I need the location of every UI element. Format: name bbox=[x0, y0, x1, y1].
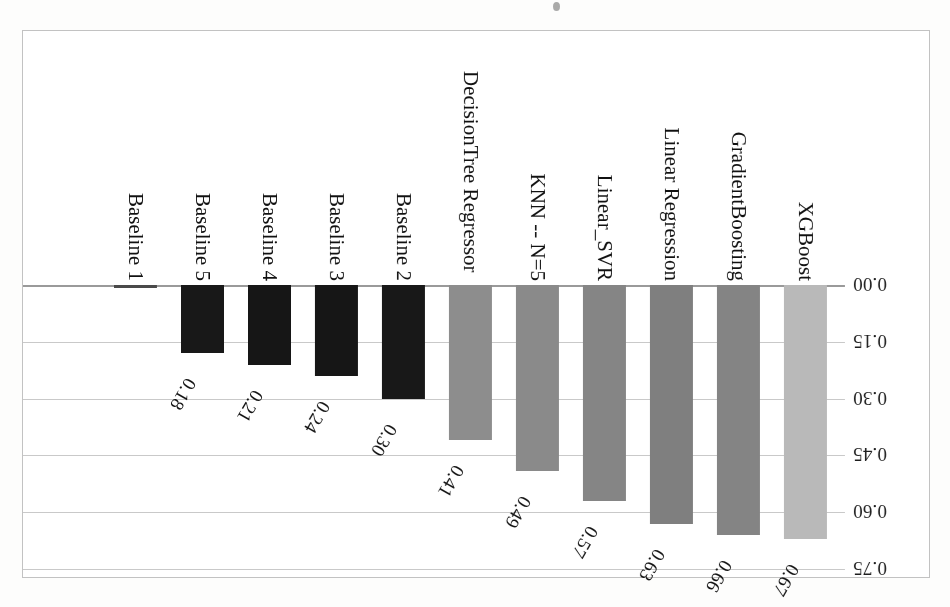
category-label: Linear_SVR bbox=[583, 31, 626, 281]
bar-value-label: 0.21 bbox=[233, 386, 269, 426]
chart-frame: 0.000.150.300.450.600.75 0.670.660.630.5… bbox=[22, 30, 930, 578]
scanned-page: 0.000.150.300.450.600.75 0.670.660.630.5… bbox=[0, 0, 950, 607]
category-label: KNN -- N=5 bbox=[516, 31, 559, 281]
bar-column bbox=[516, 285, 559, 471]
bar-value-label: 0.41 bbox=[434, 461, 470, 501]
category-label: Baseline 1 bbox=[114, 31, 157, 281]
axis-tick-label: 0.45 bbox=[853, 445, 923, 464]
category-label-text: Baseline 2 bbox=[393, 193, 414, 281]
bar[interactable]: 0.67 bbox=[784, 285, 827, 577]
bar[interactable] bbox=[114, 285, 157, 577]
category-label: DecisionTree Regressor bbox=[449, 31, 492, 281]
bar-value-label: 0.24 bbox=[300, 397, 336, 437]
title-artifact-speck bbox=[553, 2, 560, 11]
bar-column bbox=[315, 285, 358, 376]
category-label: XGBoost bbox=[784, 31, 827, 281]
bar[interactable]: 0.57 bbox=[583, 285, 626, 577]
axis-tick-label: 0.60 bbox=[853, 502, 923, 521]
bar[interactable]: 0.21 bbox=[248, 285, 291, 577]
bar-column bbox=[650, 285, 693, 524]
bar-column bbox=[583, 285, 626, 501]
bar-column bbox=[382, 285, 425, 399]
category-label-text: Baseline 1 bbox=[125, 193, 146, 281]
plot-rotor: 0.000.150.300.450.600.75 0.670.660.630.5… bbox=[23, 31, 931, 577]
bar[interactable]: 0.41 bbox=[449, 285, 492, 577]
category-axis: XGBoostGradientBoostingLinear Regression… bbox=[23, 31, 845, 281]
bar-value-label: 0.66 bbox=[702, 556, 738, 596]
axis-tick-label: 0.30 bbox=[853, 389, 923, 408]
bar-value-label: 0.49 bbox=[501, 492, 537, 532]
category-label-text: KNN -- N=5 bbox=[527, 174, 548, 282]
bar-column bbox=[784, 285, 827, 539]
bar[interactable]: 0.66 bbox=[717, 285, 760, 577]
category-label: Baseline 5 bbox=[181, 31, 224, 281]
category-label-text: XGBoost bbox=[795, 202, 816, 281]
category-label-text: Linear_SVR bbox=[594, 175, 615, 281]
bar[interactable]: 0.18 bbox=[181, 285, 224, 577]
bar-value-label: 0.18 bbox=[166, 374, 202, 414]
category-label-text: Linear Regression bbox=[661, 128, 682, 281]
category-label: Baseline 3 bbox=[315, 31, 358, 281]
bar[interactable]: 0.63 bbox=[650, 285, 693, 577]
category-label: Linear Regression bbox=[650, 31, 693, 281]
bar[interactable]: 0.49 bbox=[516, 285, 559, 577]
bar-value-label: 0.63 bbox=[635, 545, 671, 585]
axis-tick-label: 0.15 bbox=[853, 332, 923, 351]
plot-area: 0.000.150.300.450.600.75 0.670.660.630.5… bbox=[23, 31, 931, 577]
category-label-text: Baseline 4 bbox=[259, 193, 280, 281]
category-label-text: DecisionTree Regressor bbox=[460, 71, 481, 281]
bar-value-label: 0.57 bbox=[568, 522, 604, 562]
category-label: Baseline 4 bbox=[248, 31, 291, 281]
bar[interactable]: 0.24 bbox=[315, 285, 358, 577]
bar-value-label: 0.30 bbox=[367, 420, 403, 460]
bar-column bbox=[114, 285, 157, 288]
category-label: GradientBoosting bbox=[717, 31, 760, 281]
bar-column bbox=[248, 285, 291, 365]
bar[interactable]: 0.30 bbox=[382, 285, 425, 577]
bar-column bbox=[181, 285, 224, 353]
category-label: Baseline 2 bbox=[382, 31, 425, 281]
category-label-text: GradientBoosting bbox=[728, 132, 749, 281]
bar-value-label: 0.67 bbox=[769, 560, 805, 600]
category-label-text: Baseline 5 bbox=[192, 193, 213, 281]
bar-column bbox=[717, 285, 760, 535]
bar-column bbox=[449, 285, 492, 440]
axis-tick-label: 0.75 bbox=[853, 559, 923, 578]
category-label-text: Baseline 3 bbox=[326, 193, 347, 281]
axis-tick-label: 0.00 bbox=[853, 275, 923, 294]
bars-area: 0.670.660.630.570.490.410.300.240.210.18 bbox=[23, 285, 845, 577]
value-axis: 0.000.150.300.450.600.75 bbox=[845, 285, 931, 577]
